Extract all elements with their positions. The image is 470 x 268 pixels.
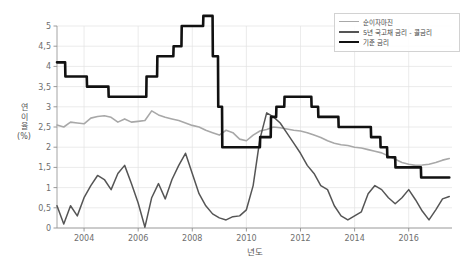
chart-legend: 순이자마진 5년 국고채 금리 - 콜금리 기준 금리 bbox=[334, 13, 460, 52]
legend-item-nim[interactable]: 순이자마진 bbox=[339, 17, 455, 26]
legend-item-spread[interactable]: 5년 국고채 금리 - 콜금리 bbox=[339, 27, 455, 36]
x-tick-label: 2008 bbox=[182, 234, 202, 243]
legend-swatch-base-rate bbox=[339, 41, 359, 43]
y-axis-title-char-1: 이 bbox=[17, 113, 31, 123]
legend-swatch-nim bbox=[339, 21, 359, 22]
y-tick-label: 1 bbox=[46, 184, 51, 193]
series-line-spread bbox=[57, 113, 449, 227]
y-tick-label: 5 bbox=[46, 22, 51, 31]
y-tick-label: 3,5 bbox=[38, 83, 51, 92]
y-tick-label: 3 bbox=[46, 103, 51, 112]
y-tick-label: 1,5 bbox=[38, 163, 51, 172]
y-tick-label: 0 bbox=[46, 224, 51, 233]
x-axis-title: 년도 bbox=[247, 247, 263, 257]
y-axis-title-char-2: 율 bbox=[17, 122, 31, 132]
legend-swatch-spread bbox=[339, 31, 359, 33]
legend-label-spread: 5년 국고채 금리 - 콜금리 bbox=[363, 27, 432, 37]
x-tick-label: 2016 bbox=[399, 234, 419, 243]
y-axis-title-char-0: 연 bbox=[17, 103, 31, 113]
y-tick-label: 4 bbox=[46, 62, 51, 71]
legend-label-nim: 순이자마진 bbox=[363, 17, 393, 27]
x-tick-label: 2012 bbox=[290, 234, 310, 243]
y-axis-title-char-3: (%) bbox=[17, 132, 31, 142]
y-tick-label: 2,5 bbox=[38, 123, 51, 132]
x-tick-label: 2006 bbox=[128, 234, 148, 243]
legend-item-base-rate[interactable]: 기준 금리 bbox=[339, 37, 455, 46]
x-tick-label: 2004 bbox=[74, 234, 94, 243]
y-tick-label: 2 bbox=[46, 143, 51, 152]
x-tick-label: 2010 bbox=[236, 234, 256, 243]
y-tick-label: 0,5 bbox=[38, 204, 51, 213]
legend-label-base-rate: 기준 금리 bbox=[363, 37, 389, 47]
x-tick-label: 2014 bbox=[344, 234, 364, 243]
y-axis-title: 연 이 율 (%) bbox=[17, 103, 31, 141]
chart-figure: 00,511,522,533,544,552004200620082010201… bbox=[0, 0, 470, 268]
y-tick-label: 4,5 bbox=[38, 42, 51, 51]
